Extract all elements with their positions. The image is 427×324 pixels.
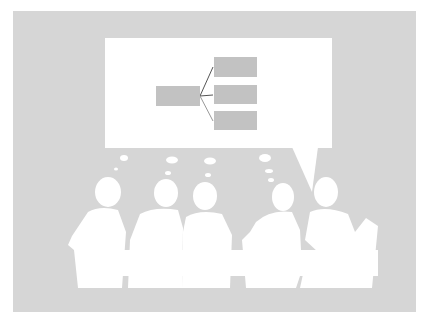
meeting-scene <box>0 0 427 324</box>
diagram-child-box-3 <box>214 111 257 130</box>
thought-dots <box>114 154 274 182</box>
diagram-child-box-2 <box>214 85 257 104</box>
diagram-child-box-1 <box>214 57 257 77</box>
people-silhouettes <box>68 177 378 288</box>
diagram-root-box <box>156 86 200 106</box>
